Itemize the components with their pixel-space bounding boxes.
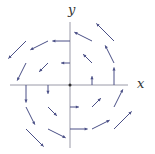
vector-arrow (26, 129, 44, 147)
arrowhead-icon (24, 100, 27, 103)
vector-arrow (39, 63, 48, 72)
vector-arrow (90, 76, 93, 85)
vector-arrow (24, 85, 27, 103)
x-axis-label: x (137, 76, 144, 91)
arrowhead-icon (112, 67, 115, 70)
origin-dot (69, 84, 72, 87)
vector-arrow (48, 107, 57, 116)
arrowhead-icon (46, 91, 49, 94)
vector-arrow (61, 61, 70, 64)
vector-arrow (96, 23, 114, 41)
arrowhead-icon (90, 76, 93, 79)
vector-arrow (17, 63, 26, 81)
arrow-shaft (8, 41, 26, 59)
vector-arrow (114, 111, 132, 129)
vector-arrow (105, 45, 114, 63)
vector-arrow (74, 32, 92, 41)
vector-arrow (30, 41, 48, 50)
vector-arrow (52, 39, 70, 42)
vector-arrow (26, 107, 35, 125)
vector-arrow (83, 54, 92, 63)
arrowhead-icon (76, 105, 79, 108)
arrow-shaft (26, 129, 44, 147)
arrowhead-icon (61, 61, 64, 64)
vector-arrow (70, 127, 88, 130)
vector-field-diagram: y x (0, 0, 155, 154)
arrowhead-icon (52, 39, 55, 42)
vector-arrow (92, 120, 110, 129)
y-axis-label: y (68, 2, 75, 17)
vector-arrow (48, 129, 66, 138)
arrow-shaft (96, 23, 114, 41)
arrowhead-icon (85, 127, 88, 130)
vector-arrow (112, 67, 115, 85)
arrow-shaft (114, 111, 132, 129)
vector-arrow (8, 41, 26, 59)
vector-arrow (92, 98, 101, 107)
vector-arrow (46, 85, 49, 94)
vector-arrow (70, 105, 79, 108)
plot-area (0, 0, 155, 154)
vector-arrow (114, 89, 123, 107)
